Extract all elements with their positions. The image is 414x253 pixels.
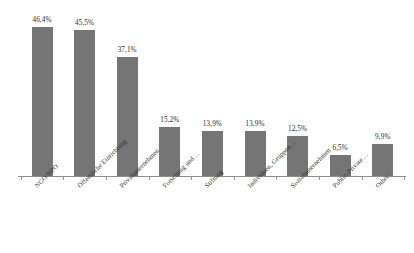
- axis-tick: [276, 177, 277, 180]
- bar-chart: 46,4%45,5%37,1%15,2%13,9%13,9%12,5%6,5%9…: [0, 0, 414, 253]
- axis-tick: [362, 177, 363, 180]
- bar-group: 6,5%: [330, 0, 351, 176]
- axis-tick: [319, 177, 320, 180]
- axis-tick: [404, 177, 405, 180]
- axis-tick: [21, 177, 22, 180]
- bar[interactable]: [74, 30, 95, 176]
- bar-group: 46,4%: [32, 0, 53, 176]
- bar-group: 45,5%: [74, 0, 95, 176]
- bar-value-label: 6,5%: [310, 144, 370, 152]
- axis-tick: [63, 177, 64, 180]
- axis-tick: [106, 177, 107, 180]
- axis-tick: [191, 177, 192, 180]
- bar-value-label: 9,9%: [353, 133, 413, 141]
- axis-tick: [234, 177, 235, 180]
- bar-group: 13,9%: [202, 0, 223, 176]
- bar-value-label: 45,5%: [55, 19, 115, 27]
- plot-area: 46,4%45,5%37,1%15,2%13,9%13,9%12,5%6,5%9…: [0, 0, 414, 253]
- axis-tick: [149, 177, 150, 180]
- bar[interactable]: [117, 57, 138, 176]
- bar-group: 13,9%: [245, 0, 266, 176]
- bar-group: 9,9%: [372, 0, 393, 176]
- bar-value-label: 12,5%: [268, 125, 328, 133]
- bar-value-label: 37,1%: [97, 46, 157, 54]
- bar-group: 15,2%: [159, 0, 180, 176]
- bar[interactable]: [372, 144, 393, 176]
- bar[interactable]: [32, 27, 53, 176]
